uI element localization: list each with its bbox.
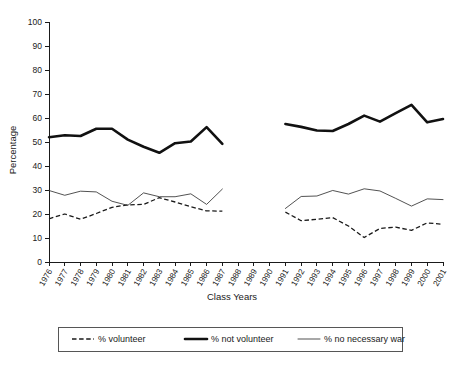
legend-label: % not volunteer xyxy=(211,334,274,344)
y-tick-label: 60 xyxy=(33,113,43,123)
y-tick-label: 30 xyxy=(33,185,43,195)
y-tick-label: 70 xyxy=(33,89,43,99)
line-chart-figure: 0102030405060708090100 19761977197819791… xyxy=(0,0,458,369)
legend-label: % volunteer xyxy=(98,334,146,344)
y-tick-label: 20 xyxy=(33,209,43,219)
x-axis-title: Class Years xyxy=(207,291,257,302)
chart-background xyxy=(0,0,458,369)
legend-label: % no necessary war xyxy=(324,334,405,344)
chart-canvas: 0102030405060708090100 19761977197819791… xyxy=(0,0,458,369)
y-tick-label: 80 xyxy=(33,65,43,75)
y-tick-label: 0 xyxy=(37,257,42,267)
y-tick-label: 50 xyxy=(33,137,43,147)
y-tick-label: 10 xyxy=(33,233,43,243)
y-tick-label: 100 xyxy=(28,17,42,27)
y-tick-label: 40 xyxy=(33,161,43,171)
y-axis-title: Percentage xyxy=(7,126,18,175)
y-tick-label: 90 xyxy=(33,41,43,51)
chart-legend: % volunteer% not volunteer% no necessary… xyxy=(58,327,405,351)
